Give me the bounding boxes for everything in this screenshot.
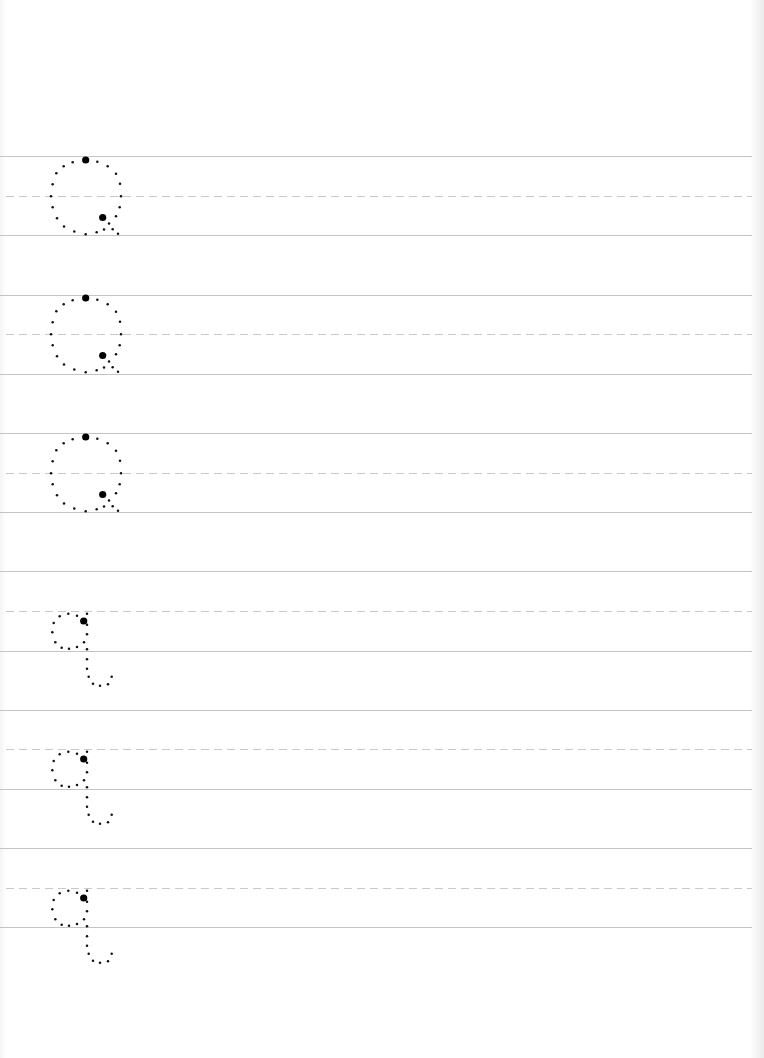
worksheet-page bbox=[0, 0, 764, 1058]
tracing-glyph-lowercase-q bbox=[0, 0, 764, 1058]
stroke-start-dot-icon bbox=[80, 894, 87, 901]
